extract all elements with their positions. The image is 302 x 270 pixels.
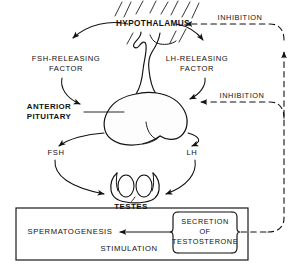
testis-left <box>118 175 134 197</box>
arrow-fsh-rf-to-pituitary <box>62 78 80 104</box>
edge-label-stimulation: STIMULATION <box>92 245 166 254</box>
dashed-feedback-riser-top <box>268 52 284 232</box>
edge-label-inhibition-middle: INHIBITION <box>209 92 275 100</box>
node-label-anterior-pituitary-line1: ANTERIOR <box>14 103 84 112</box>
node-label-anterior-pituitary-line2: PITUITARY <box>14 113 84 122</box>
pituitary-stalk-right <box>149 33 160 94</box>
dashed-inhibition-to-pituitary <box>201 102 284 118</box>
pituitary-stalk-left <box>134 32 147 94</box>
node-label-secretion-line2: OF <box>176 228 234 236</box>
arrow-pituitary-to-lh <box>188 133 199 146</box>
node-label-fsh-releasing-factor-line1: FSH-RELEASING <box>18 55 114 64</box>
hpg-axis-diagram: HYPOTHALAMUS FSH-RELEASING FACTOR LH-REL… <box>0 0 302 270</box>
arrow-pituitary-to-fsh <box>59 133 104 146</box>
testis-right <box>136 175 152 197</box>
node-label-secretion-line1: SECRETION <box>176 218 234 226</box>
node-label-fsh: FSH <box>42 149 70 158</box>
arrow-fsh-to-testes <box>55 160 104 194</box>
node-label-hypothalamus: HYPOTHALAMUS <box>112 19 194 28</box>
arrow-lh-rf-to-pituitary <box>190 78 205 99</box>
anterior-pituitary-gland <box>104 92 187 145</box>
edge-label-inhibition-top: INHIBITION <box>207 14 273 22</box>
node-label-spermatogenesis: SPERMATOGENESIS <box>22 228 118 237</box>
node-label-testes: TESTES <box>104 203 158 212</box>
arrow-lh-to-testes <box>166 160 195 194</box>
node-label-lh-releasing-factor-line1: LH-RELEASING <box>152 55 242 64</box>
node-label-fsh-releasing-factor-line2: FACTOR <box>18 65 114 74</box>
node-label-lh-releasing-factor-line2: FACTOR <box>152 65 242 74</box>
node-label-secretion-line3: TESTOSTERONE <box>172 238 238 246</box>
node-label-lh: LH <box>180 149 204 158</box>
